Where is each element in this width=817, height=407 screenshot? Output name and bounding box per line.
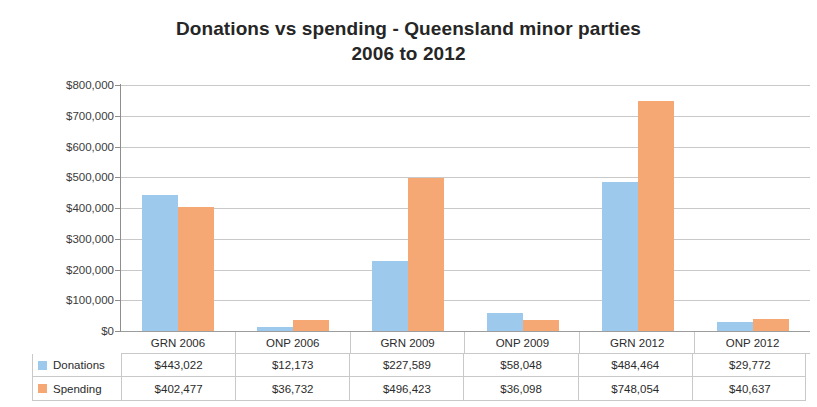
y-axis-tick-mark [115, 270, 121, 271]
category-label-onp-2006: ONP 2006 [236, 332, 351, 353]
table-cell-donations-grn-2009: $227,589 [350, 354, 464, 376]
bar-spending-onp-2006[interactable] [293, 320, 329, 331]
table-cell-donations-grn-2006: $443,022 [122, 354, 236, 376]
y-axis-tick-label: $200,000 [36, 264, 114, 276]
y-axis-tick-label: $500,000 [36, 171, 114, 183]
y-axis-tick-label: $800,000 [36, 79, 114, 91]
y-axis-tick-mark [115, 85, 121, 86]
y-axis-tick-label: $100,000 [36, 294, 114, 306]
y-axis-tick-mark [115, 239, 121, 240]
table-cell-donations-grn-2012: $484,464 [579, 354, 693, 376]
y-axis-tick-mark [115, 300, 121, 301]
bar-group [695, 85, 810, 331]
table-row: Spending$402,477$36,732$496,423$36,098$7… [33, 377, 805, 400]
table-cell-spending-onp-2006: $36,732 [236, 377, 350, 400]
y-axis-tick-mark [115, 331, 121, 332]
table-cell-donations-onp-2009: $58,048 [465, 354, 579, 376]
y-axis-tick-label: $600,000 [36, 141, 114, 153]
bar-group [580, 85, 695, 331]
plot-area [121, 85, 810, 331]
bar-spending-onp-2012[interactable] [753, 319, 789, 331]
y-axis-tick-mark [115, 147, 121, 148]
table-cell-spending-grn-2006: $402,477 [122, 377, 236, 400]
legend-swatch-donations-icon [38, 361, 47, 370]
table-cell-spending-grn-2009: $496,423 [350, 377, 464, 400]
legend-label: Donations [53, 359, 105, 371]
bar-spending-onp-2009[interactable] [523, 320, 559, 331]
table-cell-spending-onp-2009: $36,098 [465, 377, 579, 400]
chart-title: Donations vs spending - Queensland minor… [0, 16, 817, 66]
bar-donations-grn-2006[interactable] [142, 195, 178, 331]
bar-group [351, 85, 466, 331]
bar-group [121, 85, 236, 331]
bar-donations-grn-2012[interactable] [602, 182, 638, 331]
y-axis-tick-label: $300,000 [36, 233, 114, 245]
bar-donations-grn-2009[interactable] [372, 261, 408, 331]
bar-group [466, 85, 581, 331]
y-axis-tick-mark [115, 116, 121, 117]
chart-title-line-2: 2006 to 2012 [0, 41, 817, 66]
table-cell-donations-onp-2006: $12,173 [236, 354, 350, 376]
bar-spending-grn-2012[interactable] [638, 101, 674, 331]
y-axis-tick-mark [115, 177, 121, 178]
y-axis-tick-label: $0 [36, 325, 114, 337]
bar-spending-grn-2006[interactable] [178, 207, 214, 331]
y-axis-tick-mark [115, 208, 121, 209]
category-label-grn-2006: GRN 2006 [121, 332, 236, 353]
legend-item-donations[interactable]: Donations [33, 354, 122, 376]
category-label-onp-2012: ONP 2012 [695, 332, 810, 353]
legend-label: Spending [53, 383, 102, 395]
y-axis-tick-label: $700,000 [36, 110, 114, 122]
category-label-grn-2012: GRN 2012 [580, 332, 695, 353]
y-axis-tick-label: $400,000 [36, 202, 114, 214]
chart-container: Donations vs spending - Queensland minor… [0, 0, 817, 407]
bar-donations-onp-2012[interactable] [717, 322, 753, 331]
table-cell-donations-onp-2012: $29,772 [693, 354, 807, 376]
table-row: Donations$443,022$12,173$227,589$58,048$… [33, 354, 805, 377]
category-label-grn-2009: GRN 2009 [351, 332, 466, 353]
bar-group [236, 85, 351, 331]
bar-spending-grn-2009[interactable] [408, 178, 444, 331]
legend-swatch-spending-icon [38, 384, 47, 393]
bar-donations-onp-2009[interactable] [487, 313, 523, 331]
category-label-onp-2009: ONP 2009 [466, 332, 581, 353]
y-axis-labels: $800,000$700,000$600,000$500,000$400,000… [26, 85, 114, 331]
table-cell-spending-onp-2012: $40,637 [693, 377, 807, 400]
data-table: Donations$443,022$12,173$227,589$58,048$… [32, 354, 806, 401]
legend-item-spending[interactable]: Spending [33, 377, 122, 400]
chart-title-line-1: Donations vs spending - Queensland minor… [176, 18, 641, 39]
table-cell-spending-grn-2012: $748,054 [579, 377, 693, 400]
category-axis-strip: GRN 2006ONP 2006GRN 2009ONP 2009GRN 2012… [121, 331, 810, 354]
